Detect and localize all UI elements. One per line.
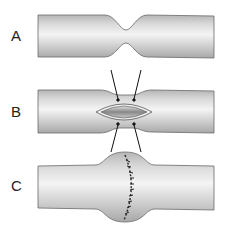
vessel-b-incision <box>38 90 214 133</box>
diagram-canvas <box>0 0 227 233</box>
vessel-a-stenosis <box>38 15 214 58</box>
vessel-c-sutured <box>38 152 214 222</box>
